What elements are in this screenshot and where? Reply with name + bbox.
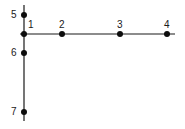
point-label: 6 xyxy=(11,47,17,58)
point-4: 4 xyxy=(164,19,170,37)
node-dot-icon xyxy=(164,31,170,37)
node-dot-icon xyxy=(117,31,123,37)
node-dot-icon xyxy=(21,109,27,115)
node-dot-icon xyxy=(59,31,65,37)
node-dot-icon xyxy=(21,12,27,18)
node-diagram: 1 2 3 4 5 6 7 xyxy=(0,0,185,129)
point-label: 1 xyxy=(28,19,34,30)
point-label: 7 xyxy=(11,106,17,117)
point-3: 3 xyxy=(117,19,123,37)
point-2: 2 xyxy=(59,19,65,37)
node-dot-icon xyxy=(21,31,27,37)
point-label: 2 xyxy=(59,19,65,30)
point-label: 3 xyxy=(117,19,123,30)
point-label: 5 xyxy=(11,9,17,20)
point-label: 4 xyxy=(164,19,170,30)
node-dot-icon xyxy=(21,50,27,56)
